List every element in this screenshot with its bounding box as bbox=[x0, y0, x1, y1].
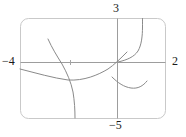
axis-label-right: 2 bbox=[172, 55, 178, 67]
axis-label-left: −4 bbox=[2, 55, 15, 67]
axis-label-top: 3 bbox=[113, 2, 119, 14]
curve-increasing-branch bbox=[20, 52, 127, 80]
curve-steep-right-branch bbox=[118, 19, 143, 63]
graphing-calculator-plot bbox=[0, 0, 186, 137]
axis-label-bottom: −5 bbox=[109, 119, 122, 131]
screen-frame bbox=[21, 19, 166, 119]
